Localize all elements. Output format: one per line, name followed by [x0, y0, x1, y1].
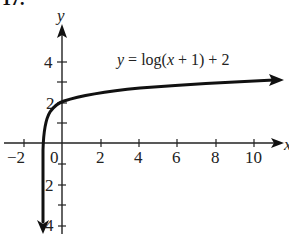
- y-tick-label-4: 4: [44, 53, 53, 72]
- y-tick-label-minus2: 2: [45, 176, 54, 195]
- x-tick-label-10: 10: [245, 148, 262, 167]
- x-tick-label-minus2: −2: [7, 148, 25, 167]
- x-tick-label-0: 0: [50, 148, 59, 167]
- problem-number: 17.: [2, 0, 25, 9]
- x-tick-label-6: 6: [172, 148, 181, 167]
- equation-label: y = log(x + 1) + 2: [115, 51, 229, 69]
- graph: 17. x y −2 0 2 4 6 8 10 4 2 2 4 y = log(: [0, 0, 289, 234]
- x-axis-label: x: [283, 135, 289, 154]
- y-axis-label: y: [55, 6, 65, 25]
- x-tick-label-8: 8: [211, 148, 220, 167]
- function-curve: [43, 80, 274, 222]
- x-tick-label-4: 4: [134, 148, 143, 167]
- x-tick-label-2: 2: [96, 148, 105, 167]
